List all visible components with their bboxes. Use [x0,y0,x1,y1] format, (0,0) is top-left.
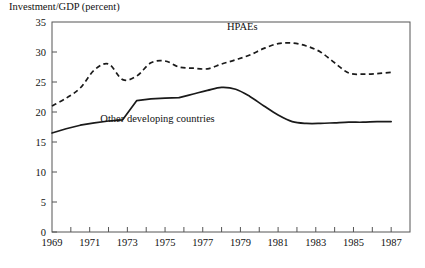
x-tick-label: 1975 [155,237,176,248]
x-tick-label: 1985 [343,237,364,248]
series-annotation-hpaes: HPAEs [227,21,258,32]
x-axis-tick-labels: 1969197119731975197719791981198319851987 [42,237,402,248]
x-tick-label: 1971 [79,237,100,248]
y-axis-ticks [52,52,57,232]
series-line-other-developing-countries [52,87,391,133]
y-tick-label: 25 [36,77,47,88]
investment-gdp-line-chart: 05101520253035 1969197119731975197719791… [0,0,425,268]
x-tick-label: 1977 [192,237,213,248]
plot-border [52,22,410,232]
y-tick-label: 35 [36,17,47,28]
x-tick-label: 1979 [230,237,251,248]
y-tick-label: 5 [41,197,46,208]
y-tick-label: 10 [36,167,47,178]
y-tick-label: 20 [36,107,47,118]
y-tick-label: 15 [36,137,47,148]
series-line-hpaes [52,43,391,106]
y-tick-label: 30 [36,47,47,58]
chart-figure: Investment/GDP (percent) 05101520253035 … [0,0,425,268]
x-tick-label: 1981 [268,237,289,248]
x-tick-label: 1973 [117,237,138,248]
x-tick-label: 1983 [305,237,326,248]
x-tick-label: 1969 [42,237,63,248]
series-annotation-other-developing-countries: Other developing countries [100,113,214,124]
x-axis-ticks [71,227,391,232]
plot-frame [52,22,410,232]
x-tick-label: 1987 [381,237,402,248]
y-axis-tick-labels: 05101520253035 [36,17,47,238]
